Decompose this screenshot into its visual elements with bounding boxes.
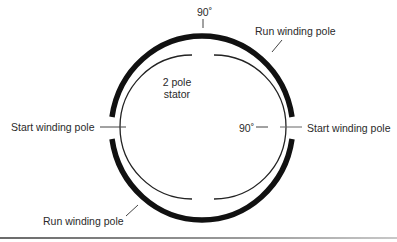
divider-line (0, 237, 397, 239)
start-winding-pole-right-label: Start winding pole (307, 123, 390, 134)
run-winding-pole-top-label: Run winding pole (255, 26, 336, 37)
stator-title: 2 pole stator (152, 76, 202, 100)
stator-title-line2: stator (152, 88, 202, 100)
right-angle-label: 90˚ (239, 123, 254, 134)
top-angle-label: 90˚ (197, 7, 212, 18)
run-winding-pole-bottom-arc (112, 139, 292, 220)
stator-diagram: 90˚ Run winding pole 2 pole stator Start… (0, 0, 397, 242)
run-bottom-leader (126, 205, 138, 216)
run-top-leader (272, 40, 282, 52)
start-winding-pole-left-label: Start winding pole (11, 122, 94, 133)
stator-title-line1: 2 pole (152, 76, 202, 88)
run-winding-pole-bottom-label: Run winding pole (43, 216, 124, 227)
